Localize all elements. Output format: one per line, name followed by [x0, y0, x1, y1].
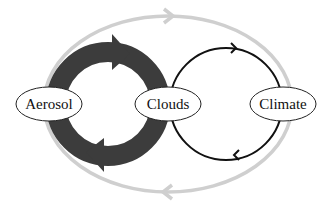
- node-aerosol-label: Aerosol: [25, 96, 73, 112]
- feedback-diagram: Aerosol Clouds Climate: [0, 0, 336, 208]
- node-clouds-label: Clouds: [147, 96, 190, 112]
- node-aerosol: Aerosol: [16, 87, 82, 121]
- node-climate-label: Climate: [259, 96, 307, 112]
- node-clouds: Clouds: [135, 87, 201, 121]
- node-climate: Climate: [250, 87, 316, 121]
